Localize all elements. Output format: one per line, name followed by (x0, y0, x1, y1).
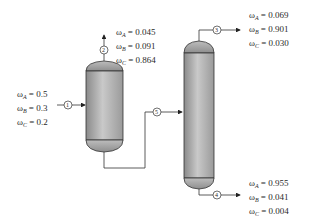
stream-5-number: 5 (155, 107, 158, 118)
stream-3-composition: ωA = 0.069 ωB = 0.901 ωC = 0.030 (249, 10, 289, 52)
column-1-vessel (86, 61, 123, 152)
stream-2-number: 2 (102, 45, 105, 56)
stream-3-line (199, 26, 240, 41)
stream-1-line (57, 101, 85, 109)
stream-4-composition: ωA = 0.955 ωB = 0.041 ωC = 0.004 (249, 178, 289, 220)
stream-2-composition: ωA = 0.045 ωB = 0.091 ωC = 0.864 (116, 27, 156, 69)
column-2-vessel (184, 41, 214, 189)
stream-3-number: 3 (215, 25, 218, 36)
stream-1-number: 1 (66, 100, 69, 111)
stream-1-composition: ωA = 0.5 ωB = 0.3 ωC = 0.2 (17, 89, 48, 131)
stream-4-number: 4 (215, 190, 218, 201)
stream-4-line (199, 189, 240, 199)
